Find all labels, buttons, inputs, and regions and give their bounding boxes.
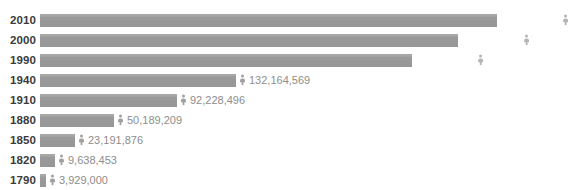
bar-value-label: 3,929,000: [59, 174, 108, 187]
bar[interactable]: [40, 54, 412, 67]
bar-value-group: 50,189,209: [118, 114, 182, 127]
category-label: 1910: [0, 94, 36, 107]
bar[interactable]: [40, 114, 114, 127]
bar-track: 132,164,569: [40, 74, 521, 87]
bar-track: 281,421,906: [40, 34, 521, 47]
bar-value-label: 308,745,538: [497, 14, 558, 27]
category-label: 1940: [0, 74, 36, 87]
bar-value-label: 23,191,876: [88, 134, 143, 147]
bar[interactable]: [40, 134, 75, 147]
bar-value-label: 9,638,453: [68, 154, 117, 167]
chart-row: 1990 248,718,301: [0, 50, 521, 70]
person-icon: [563, 15, 568, 26]
bar[interactable]: [40, 34, 458, 47]
bar-value-label: 281,421,906: [458, 34, 519, 47]
bar[interactable]: [40, 74, 236, 87]
bar-value-group: 132,164,569: [240, 74, 310, 87]
chart-row: 1820 9,638,453: [0, 150, 521, 170]
person-icon: [59, 155, 64, 166]
bar-track: 9,638,453: [40, 154, 521, 167]
category-label: 1880: [0, 114, 36, 127]
category-label: 2010: [0, 14, 36, 27]
chart-row: 1880 50,189,209: [0, 110, 521, 130]
person-icon: [181, 95, 186, 106]
bar-value-group: 23,191,876: [79, 134, 143, 147]
bar[interactable]: [40, 94, 177, 107]
bar-value-group: 308,745,538: [497, 14, 521, 27]
category-label: 1820: [0, 154, 36, 167]
chart-row: 1910 92,228,496: [0, 90, 521, 110]
bar-value-group: 92,228,496: [181, 94, 245, 107]
chart-row: 2000 281,421,906: [0, 30, 521, 50]
bar[interactable]: [40, 14, 497, 27]
category-label: 1850: [0, 134, 36, 147]
bar-track: 92,228,496: [40, 94, 521, 107]
bar-value-label: 50,189,209: [127, 114, 182, 127]
person-icon: [79, 135, 84, 146]
chart-row: 1940 132,164,569: [0, 70, 521, 90]
bar-track: 50,189,209: [40, 114, 521, 127]
person-icon: [240, 75, 245, 86]
bar-track: 248,718,301: [40, 54, 521, 67]
bar-value-label: 248,718,301: [412, 54, 473, 67]
population-bar-chart: 2010 308,745,538 2000 281,421,906 1990 2…: [0, 0, 521, 186]
bar-value-label: 92,228,496: [190, 94, 245, 107]
chart-row: 1850 23,191,876: [0, 130, 521, 150]
bar[interactable]: [40, 174, 46, 187]
bar-value-label: 132,164,569: [249, 74, 310, 87]
bar[interactable]: [40, 154, 55, 167]
person-icon: [50, 175, 55, 186]
person-icon: [524, 35, 529, 46]
bar-value-group: 248,718,301: [412, 54, 521, 67]
bar-value-group: 9,638,453: [59, 154, 117, 167]
bar-value-group: 3,929,000: [50, 174, 108, 187]
category-label: 1990: [0, 54, 36, 67]
chart-row: 1790 3,929,000: [0, 170, 521, 190]
person-icon: [118, 115, 123, 126]
bar-track: 308,745,538: [40, 14, 521, 27]
bar-value-group: 281,421,906: [458, 34, 521, 47]
person-icon: [478, 55, 483, 66]
bar-track: 23,191,876: [40, 134, 521, 147]
bar-track: 3,929,000: [40, 174, 521, 187]
category-label: 2000: [0, 34, 36, 47]
category-label: 1790: [0, 174, 36, 187]
chart-row: 2010 308,745,538: [0, 10, 521, 30]
